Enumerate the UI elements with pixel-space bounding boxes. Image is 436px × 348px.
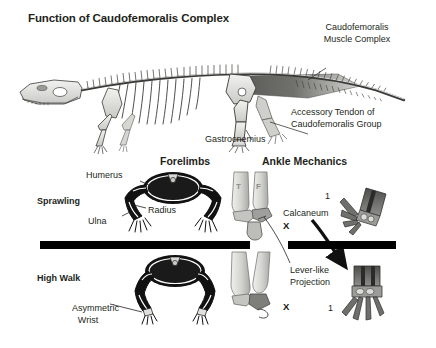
manus-right-high-walk xyxy=(193,314,208,325)
calcaneum-high-walk xyxy=(249,294,270,310)
heading-ankle-mechanics: Ankle Mechanics xyxy=(262,155,347,167)
label-asymmetric-wrist: Asymmetric Wrist xyxy=(57,303,119,326)
femur-far xyxy=(256,96,272,120)
manus-front xyxy=(94,146,107,154)
radius-ulna-far xyxy=(120,130,130,145)
x-marker-high-walk: X xyxy=(283,301,289,312)
digit-label-sprawling: 1 xyxy=(325,191,330,201)
orbit xyxy=(53,88,67,97)
antorbital-fenestra xyxy=(37,85,47,90)
label-caudofemoralis: Caudofemoralis Muscle Complex xyxy=(282,22,432,45)
manus-left-sprawling xyxy=(129,218,151,232)
lever-projection-high-walk xyxy=(258,309,268,318)
radius-ulna-left-high-walk xyxy=(135,291,151,311)
figure-title: Function of Caudofemoralis Complex xyxy=(28,12,229,24)
ground-bar-right xyxy=(288,241,396,249)
radius-ulna-right-high-walk xyxy=(199,291,215,311)
digit-label-high-walk: 1 xyxy=(328,303,333,313)
sternum-node-sprawling xyxy=(170,177,175,182)
label-humerus: Humerus xyxy=(86,170,123,182)
carpal-1-high-walk xyxy=(356,289,364,295)
transition-arrow xyxy=(300,218,370,280)
radius-ulna-left-sprawling xyxy=(125,198,142,220)
manus-far xyxy=(119,145,127,152)
label-ulna: Ulna xyxy=(88,216,107,228)
label-accessory-tendon: Accessory Tendon of Caudofemoralis Group xyxy=(291,107,382,130)
scapula xyxy=(102,88,122,118)
heading-forelimbs: Forelimbs xyxy=(160,155,210,167)
ulna-leader xyxy=(122,212,130,216)
digits-high-walk xyxy=(342,297,384,320)
ground-bar-left xyxy=(40,241,250,249)
lever-leader-line xyxy=(264,217,290,263)
humerus-far xyxy=(122,114,135,130)
label-asymmetric-line2: Wrist xyxy=(57,315,119,327)
carpal-2-high-walk xyxy=(366,289,374,295)
toes-near xyxy=(229,146,249,153)
manus-left-high-walk xyxy=(142,314,157,325)
ribs xyxy=(114,78,200,124)
forelimb-high-walk-illustration xyxy=(122,253,228,325)
label-accessory-tendon-line2: Caudofemoralis Group xyxy=(291,119,382,131)
label-caudofemoralis-line2: Muscle Complex xyxy=(282,34,432,46)
label-caudofemoralis-line1: Caudofemoralis xyxy=(282,22,432,34)
radius-ulna-front xyxy=(96,130,106,146)
label-gastrocnemius: Gastrocnemius xyxy=(205,134,266,146)
radius-ulna-right-sprawling xyxy=(204,198,221,220)
forearm-stripe2-high-walk xyxy=(371,266,375,286)
sternum-node-high-walk xyxy=(172,260,177,265)
tibia-sprawling xyxy=(232,172,249,214)
anatomical-figure: Function of Caudofemoralis Complex xyxy=(0,0,436,348)
label-accessory-tendon-line1: Accessory Tendon of xyxy=(291,107,382,119)
humerus-front xyxy=(98,114,112,130)
row-label-high-walk: High Walk xyxy=(37,273,80,283)
acetabulum xyxy=(238,88,246,96)
label-fibula-abbrev: F xyxy=(256,182,261,191)
row-label-sprawling: Sprawling xyxy=(37,196,80,206)
forelimb-sprawling-illustration xyxy=(118,168,228,236)
caudofemoralis-muscle xyxy=(240,74,360,98)
label-asymmetric-line1: Asymmetric xyxy=(57,303,119,315)
skeleton-illustration xyxy=(8,30,408,150)
manus-right-sprawling xyxy=(195,218,217,232)
label-tibia-abbrev: T xyxy=(236,182,241,191)
label-radius: Radius xyxy=(148,205,176,217)
fibula-sprawling xyxy=(253,172,268,212)
tibia-high-walk xyxy=(231,252,250,298)
lever-projection-sprawling xyxy=(247,222,262,240)
